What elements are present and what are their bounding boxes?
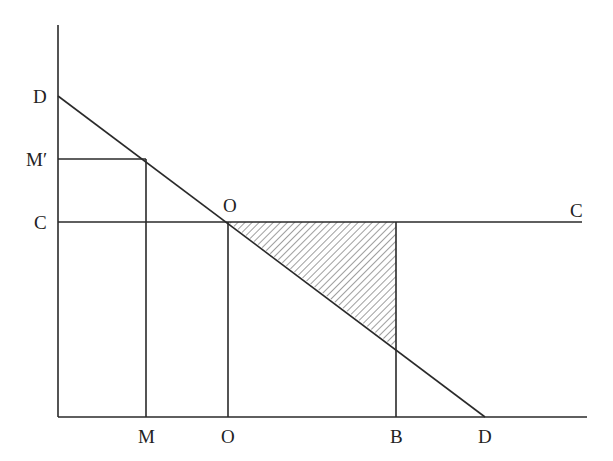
label-x-o: O: [221, 426, 235, 447]
label-y-d: D: [33, 86, 47, 107]
label-y-c: C: [34, 212, 47, 233]
label-x-m: M: [138, 426, 155, 447]
label-x-d: D: [478, 426, 492, 447]
label-x-b: B: [390, 426, 403, 447]
supply-demand-diagram: D M′ C O C M O B D: [0, 0, 613, 461]
label-y-m-prime: M′: [26, 149, 47, 170]
demand-curve: [58, 96, 485, 417]
shaded-triangle: [228, 222, 396, 348]
label-c-right: C: [570, 200, 583, 221]
label-intersection-o: O: [223, 195, 237, 216]
